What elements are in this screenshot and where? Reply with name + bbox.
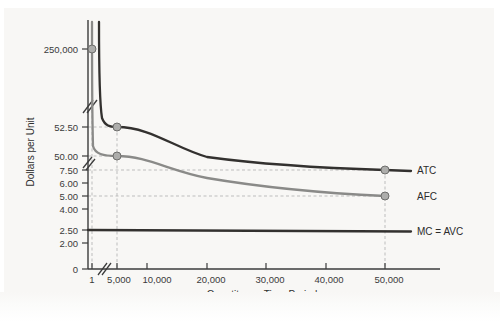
marker-atc-50000-7.50 <box>381 166 389 174</box>
marker-atc-5000-52.50 <box>113 123 121 131</box>
mc-avc-curve <box>88 230 411 232</box>
marker-afc-50000-5.00 <box>381 192 389 200</box>
curve-label-atc: ATC <box>417 165 436 176</box>
y-tick-label-4.00: 4.00 <box>60 204 79 215</box>
x-tick-label-5000: 5,000 <box>107 274 131 285</box>
curve-label-mc-avc: MC = AVC <box>417 226 463 237</box>
x-tick-label-1: 1 <box>89 274 94 285</box>
y-tick-label-5.00: 5.00 <box>60 191 79 202</box>
x-tick-label-30000: 30,000 <box>255 274 284 285</box>
x-tick-marks <box>92 263 385 269</box>
page-margin-top <box>0 0 500 8</box>
x-tick-label-40000: 40,000 <box>314 274 343 285</box>
y-tick-label-2.50: 2.50 <box>60 225 79 236</box>
y-axis-break-lower <box>83 157 95 170</box>
y-axis-break-upper <box>83 100 97 113</box>
cost-curves-chart: 250,000 52.50 50.00 7.50 6.00 5.00 4.00 … <box>0 0 500 322</box>
y-tick-label-7.50: 7.50 <box>60 165 79 176</box>
y-tick-label-50.00: 50.00 <box>54 151 78 162</box>
x-tick-label-20000: 20,000 <box>196 274 225 285</box>
y-tick-labels: 250,000 52.50 50.00 7.50 6.00 5.00 4.00 … <box>44 44 78 275</box>
marker-afc-5000-50.00 <box>113 152 121 160</box>
x-tick-label-10000: 10,000 <box>142 274 171 285</box>
y-tick-label-2.00: 2.00 <box>60 238 79 249</box>
page-margin-right <box>494 0 500 322</box>
y-tick-label-250000: 250,000 <box>44 44 78 55</box>
y-tick-marks <box>82 49 88 269</box>
data-markers <box>88 45 389 200</box>
y-tick-label-6.00: 6.00 <box>60 178 79 189</box>
y-tick-label-0: 0 <box>73 264 78 275</box>
page-margin-bottom <box>0 292 500 322</box>
x-tick-label-50000: 50,000 <box>374 274 403 285</box>
page-margin-left <box>0 0 4 322</box>
x-tick-labels: 1 5,000 10,000 20,000 30,000 40,000 50,0… <box>89 274 403 285</box>
y-axis-title: Dollars per Unit <box>25 117 36 186</box>
marker-afc-1-250000 <box>88 45 96 53</box>
curve-label-afc: AFC <box>417 191 437 202</box>
y-tick-label-52.50: 52.50 <box>54 122 78 133</box>
atc-curve <box>99 22 411 171</box>
